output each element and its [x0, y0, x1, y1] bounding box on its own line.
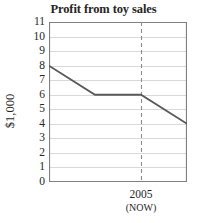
- y-tick-label: 5: [25, 103, 45, 115]
- y-tick-label: 8: [25, 60, 45, 72]
- axis-frame: [49, 22, 187, 182]
- data-series-profit: [49, 66, 187, 124]
- y-tick-label: 3: [25, 132, 45, 144]
- y-tick-label: 6: [25, 89, 45, 101]
- plot-area: [49, 22, 187, 182]
- chart-container: Profit from toy sales $1,000 01234567891…: [0, 0, 207, 223]
- y-tick-label: 11: [25, 16, 45, 28]
- plot-svg: [49, 22, 187, 182]
- y-tick-label: 10: [25, 31, 45, 43]
- y-tick-label: 2: [25, 147, 45, 159]
- chart-title: Profit from toy sales: [0, 2, 207, 17]
- series-line-profit: [49, 66, 187, 124]
- y-axis-label-text: $1,000: [3, 94, 18, 128]
- y-tick-label: 0: [25, 176, 45, 188]
- x-tick-label-now: (NOW): [126, 202, 157, 213]
- x-axis-tick-labels: 2005(NOW): [49, 188, 187, 222]
- y-tick-label: 9: [25, 45, 45, 57]
- y-axis-tick-labels: 01234567891011: [23, 22, 45, 182]
- y-axis-label: $1,000: [2, 66, 18, 156]
- y-tick-label: 7: [25, 74, 45, 86]
- x-tick-label-2005: 2005: [130, 188, 153, 200]
- y-tick-label: 1: [25, 161, 45, 173]
- y-tick-label: 4: [25, 118, 45, 130]
